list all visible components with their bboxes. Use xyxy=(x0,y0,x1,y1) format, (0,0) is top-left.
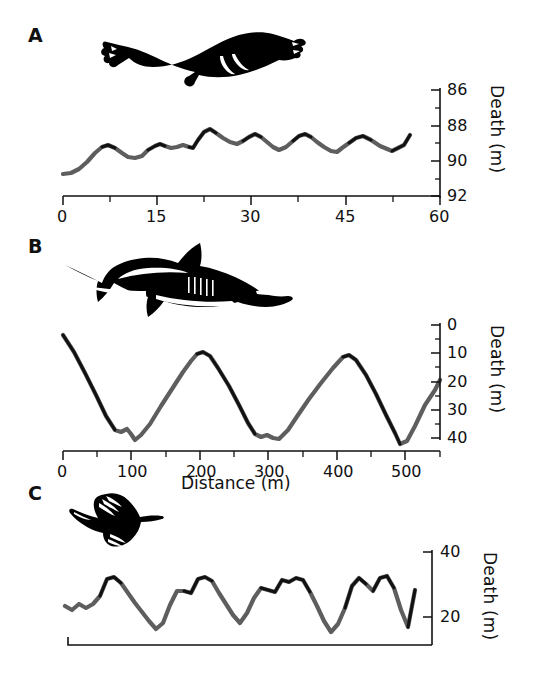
panel-b-xtick-4: 400 xyxy=(323,462,354,481)
panel-b-ytick-1: 10 xyxy=(447,343,467,362)
panel-b-ytick-3: 30 xyxy=(447,400,467,419)
panel-a-xtick-4: 60 xyxy=(429,207,449,226)
panel-b-xtick-5: 500 xyxy=(391,462,422,481)
depth-profile-figure: A xyxy=(0,0,535,697)
panel-b-ytick-4: 40 xyxy=(447,428,467,447)
panel-a: A xyxy=(0,0,535,225)
panel-a-ytick-1: 88 xyxy=(447,116,467,135)
panel-a-ytick-2: 90 xyxy=(447,151,467,170)
panel-a-xtick-0: 0 xyxy=(57,207,67,226)
panel-a-xtick-1: 15 xyxy=(146,207,166,226)
panel-c-ytick-1: 20 xyxy=(440,607,460,626)
panel-b-xtick-0: 0 xyxy=(57,462,67,481)
panel-c-plot xyxy=(0,480,535,697)
panel-c-y-axis-title: Death (m) xyxy=(480,552,500,640)
panel-a-xtick-3: 45 xyxy=(335,207,355,226)
panel-a-ytick-3: 92 xyxy=(447,186,467,205)
panel-a-ytick-0: 86 xyxy=(447,80,467,99)
panel-b: B xyxy=(0,225,535,480)
panel-b-ytick-0: 0 xyxy=(447,315,457,334)
panel-c-ytick-0: 40 xyxy=(440,542,460,561)
panel-b-xtick-1: 100 xyxy=(117,462,148,481)
panel-b-y-axis-title: Death (m) xyxy=(487,325,507,413)
panel-a-xtick-2: 30 xyxy=(240,207,260,226)
panel-c: C Distance (m) xyxy=(0,480,535,697)
panel-a-y-axis-title: Death (m) xyxy=(487,85,507,173)
panel-b-ytick-2: 20 xyxy=(447,372,467,391)
